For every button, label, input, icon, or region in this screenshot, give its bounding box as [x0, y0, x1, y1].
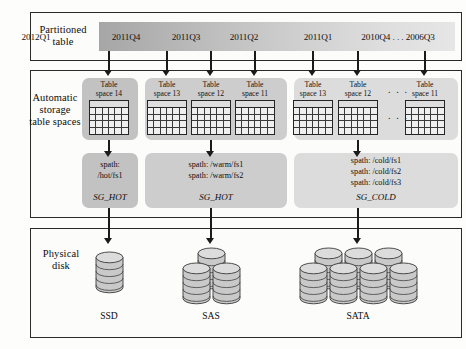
partition-connector-1	[166, 51, 168, 71]
storagegroup-arrow-0	[104, 238, 112, 244]
partition-connector-6	[424, 51, 426, 71]
diagram-canvas: Partitioned table Automatic storage tabl…	[0, 0, 466, 349]
tablespace-arrow-2	[353, 151, 361, 157]
partition-arrow-2	[206, 70, 214, 76]
storagegroup-arrow-2	[353, 238, 361, 244]
partition-arrow-5	[353, 70, 361, 76]
partition-label-1: 2011Q4	[112, 32, 141, 42]
partition-arrow-1	[162, 70, 170, 76]
partition-arrow-0	[104, 70, 112, 76]
partition-label-3: 2011Q2	[230, 32, 259, 42]
tablespace-arrow-0	[104, 151, 112, 157]
partition-label-2: 2011Q3	[172, 32, 201, 42]
partition-arrow-6	[420, 70, 428, 76]
partition-label-4: 2011Q1	[304, 32, 333, 42]
partition-connector-5	[357, 51, 359, 71]
partition-arrow-3	[250, 70, 258, 76]
storagegroup-connector-0	[108, 208, 110, 240]
storagegroup-connector-1	[210, 208, 212, 240]
partition-connector-0	[108, 51, 110, 71]
storagegroup-arrow-1	[206, 238, 214, 244]
storagegroup-connector-2	[357, 208, 359, 240]
partition-connector-3	[254, 51, 256, 71]
partition-connector-2	[210, 51, 212, 71]
partition-connector-4	[312, 51, 314, 71]
connector-layer	[0, 0, 466, 349]
partition-arrow-4	[308, 70, 316, 76]
tablespace-arrow-1	[206, 151, 214, 157]
partition-label-0: 2012Q1	[21, 32, 50, 42]
partition-label-5: 2010Q4 . . . 2006Q3	[361, 32, 434, 42]
